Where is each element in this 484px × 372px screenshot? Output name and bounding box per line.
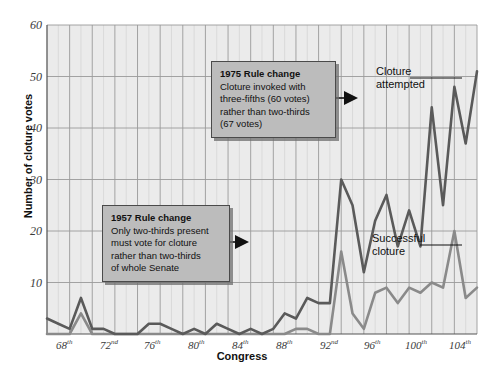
cloture-votes-line-chart: 60 50 40 30 20 10 68th 72nd 76th 80th 84… — [0, 0, 484, 372]
cloture-attempted-label-line-1: Cloture — [376, 65, 411, 77]
annotation-1975-line-2: three-fifths (60 votes) — [220, 93, 327, 105]
annotation-1957-line-2: must vote for cloture — [111, 237, 221, 249]
chart-svg — [0, 0, 484, 372]
successful-cloture-label-line-1: Successful — [372, 232, 425, 244]
annotation-1975-heading: 1975 Rule change — [220, 68, 327, 80]
successful-cloture-label-line-2: cloture — [372, 245, 405, 257]
annotation-rule-change-1957: 1957 Rule change Only two-thirds present… — [102, 205, 230, 282]
annotation-1975-line-1: Cloture invoked with — [220, 81, 327, 93]
annotation-1957-line-3: rather than two-thirds — [111, 250, 221, 262]
annotation-1975-line-4: (67 votes) — [220, 118, 327, 130]
annotation-1957-heading: 1957 Rule change — [111, 212, 221, 224]
annotation-1957-line-4: of whole Senate — [111, 262, 221, 274]
cloture-attempted-label: Cloture attempted — [376, 65, 425, 91]
annotation-rule-change-1975: 1975 Rule change Cloture invoked with th… — [211, 61, 336, 138]
cloture-attempted-label-line-2: attempted — [376, 78, 425, 90]
successful-cloture-label: Successful cloture — [372, 232, 425, 258]
annotation-1957-line-1: Only two-thirds present — [111, 225, 221, 237]
x-axis-title: Congress — [0, 350, 484, 362]
y-axis-title: Number of cloture votes — [22, 76, 34, 236]
annotation-1975-line-3: rather than two-thirds — [220, 106, 327, 118]
